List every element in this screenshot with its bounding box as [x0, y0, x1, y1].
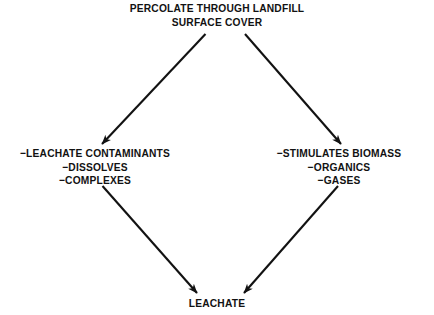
leachate-formation-diagram: PERCOLATE THROUGH LANDFILL SURFACE COVER…	[0, 0, 434, 315]
node-stimulates-biomass-line-3: −GASES	[251, 174, 428, 188]
node-stimulates-biomass: −STIMULATES BIOMASS −ORGANICS −GASES	[251, 147, 428, 188]
edge-source-contaminants	[102, 34, 206, 144]
node-leachate-contaminants: −LEACHATE CONTAMINANTS −DISSOLVES −COMPL…	[7, 147, 184, 188]
node-leachate-result: LEACHATE	[15, 297, 419, 311]
edge-source-biomass	[245, 34, 341, 144]
node-leachate-contaminants-line-3: −COMPLEXES	[7, 174, 184, 188]
edge-biomass-leachate	[244, 186, 338, 293]
node-leachate-result-line-1: LEACHATE	[15, 297, 419, 311]
node-percolate-source-line-1: PERCOLATE THROUGH LANDFILL	[15, 2, 419, 16]
node-stimulates-biomass-line-2: −ORGANICS	[251, 161, 428, 175]
edge-contaminants-leachate	[103, 186, 198, 293]
node-percolate-source: PERCOLATE THROUGH LANDFILL SURFACE COVER	[15, 2, 419, 29]
node-leachate-contaminants-line-1: −LEACHATE CONTAMINANTS	[7, 147, 184, 161]
node-percolate-source-line-2: SURFACE COVER	[15, 16, 419, 30]
node-leachate-contaminants-line-2: −DISSOLVES	[7, 161, 184, 175]
node-stimulates-biomass-line-1: −STIMULATES BIOMASS	[251, 147, 428, 161]
